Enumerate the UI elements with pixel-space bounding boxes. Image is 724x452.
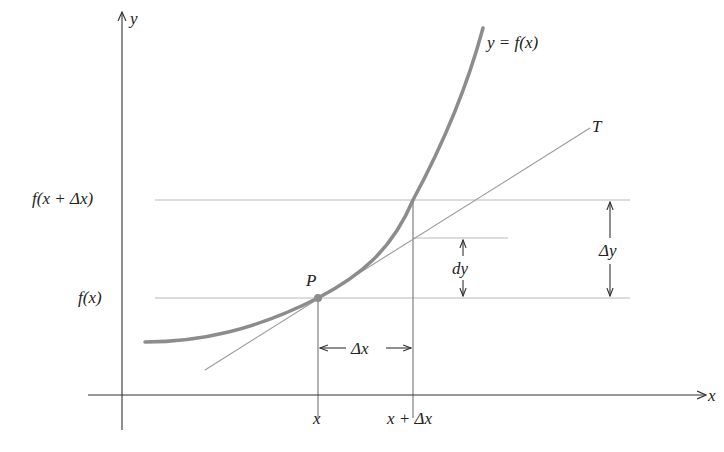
guide-lines bbox=[155, 200, 630, 418]
y-axis-label: y bbox=[130, 10, 138, 27]
tangent-label: T bbox=[592, 118, 601, 135]
x-axis-label: x bbox=[708, 387, 716, 404]
tangent-line bbox=[205, 128, 590, 370]
point-p bbox=[314, 294, 322, 302]
differential-diagram: y x y = f(x) T P f(x + Δx) f(x) x x + Δx… bbox=[0, 0, 724, 452]
axes bbox=[88, 12, 706, 430]
delta-y-label: Δy bbox=[599, 242, 617, 259]
function-curve bbox=[145, 28, 483, 342]
y-tick-f-x: f(x) bbox=[78, 289, 102, 306]
dx-label: Δx bbox=[351, 340, 369, 357]
x-tick-x-plus-dx: x + Δx bbox=[387, 410, 432, 427]
curve-label: y = f(x) bbox=[487, 34, 538, 51]
point-p-label: P bbox=[306, 272, 316, 289]
dy-label: dy bbox=[452, 260, 468, 277]
y-tick-f-x-plus-dx: f(x + Δx) bbox=[32, 190, 93, 207]
diagram-canvas bbox=[0, 0, 724, 452]
x-tick-x: x bbox=[313, 410, 321, 427]
